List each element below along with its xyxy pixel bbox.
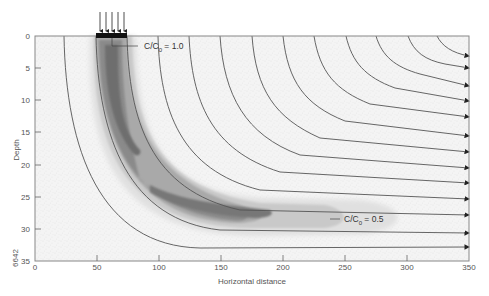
svg-text:50: 50	[93, 263, 102, 272]
svg-text:100: 100	[152, 263, 166, 272]
svg-text:350: 350	[462, 263, 476, 272]
y-axis-title: Depth	[12, 139, 21, 160]
infiltration-arrows	[100, 12, 124, 31]
svg-text:150: 150	[214, 263, 228, 272]
svg-text:5: 5	[26, 64, 31, 73]
source-zone	[96, 33, 127, 38]
x-axis-title: Horizontal distance	[218, 277, 287, 286]
y-tick-labels: 0 5 10 15 20 25 30 35	[21, 32, 30, 266]
svg-text:30: 30	[21, 225, 30, 234]
svg-text:300: 300	[400, 263, 414, 272]
svg-text:25: 25	[21, 193, 30, 202]
svg-text:35: 35	[21, 257, 30, 266]
svg-text:10: 10	[21, 96, 30, 105]
svg-text:200: 200	[276, 263, 290, 272]
x-tick-labels: 0 50 100 150 200 250 300 350	[33, 263, 476, 272]
flow-net-diagram: C/C0 = 1.0 C/C0 = 0.5 0 5 10 15 20 25 30…	[0, 0, 489, 296]
svg-text:0: 0	[26, 32, 31, 41]
svg-text:20: 20	[21, 161, 30, 170]
svg-text:15: 15	[21, 128, 30, 137]
svg-text:0: 0	[33, 263, 38, 272]
svg-text:250: 250	[338, 263, 352, 272]
figure-id-label: 6642	[11, 249, 20, 267]
